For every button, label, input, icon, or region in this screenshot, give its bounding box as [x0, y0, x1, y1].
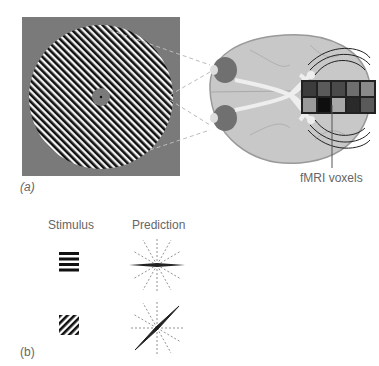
fmri-voxels-label: fMRI voxels [300, 171, 363, 185]
panel-b-label: (b) [20, 345, 35, 359]
diagonal-grating-stimulus [59, 315, 81, 337]
horizontal-grating-stimulus [59, 252, 83, 272]
stimulus-header: Stimulus [48, 218, 94, 232]
prediction-header: Prediction [132, 218, 185, 232]
horizontal-prediction-plot [127, 235, 187, 295]
diagonal-prediction-plot [127, 298, 187, 358]
